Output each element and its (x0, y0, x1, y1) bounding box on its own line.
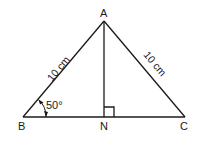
right-angle-marker (104, 107, 114, 117)
side-label-AB: 10 cm (44, 53, 72, 83)
side-AC (104, 21, 185, 117)
vertex-label-B: B (18, 120, 25, 132)
vertex-label-C: C (180, 120, 188, 132)
side-label-AC: 10 cm (141, 49, 169, 79)
vertex-label-A: A (100, 7, 108, 19)
triangle-diagram: A B C N 10 cm 10 cm 50° (0, 0, 197, 142)
angle-label-B: 50° (46, 99, 63, 111)
angle-arrow-bottom-icon (44, 111, 48, 117)
vertex-label-N: N (100, 120, 108, 132)
